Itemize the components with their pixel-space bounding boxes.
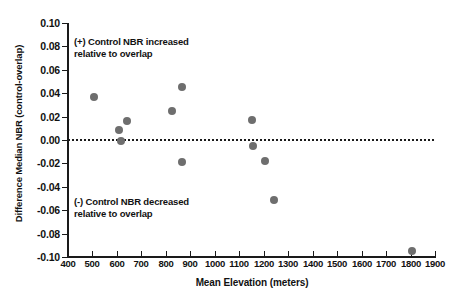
data-point <box>261 157 269 165</box>
y-axis-tick <box>62 163 68 164</box>
y-axis-tick-label: -0.06 <box>22 205 60 215</box>
y-axis-tick <box>62 23 68 24</box>
y-axis-tick-label: 0.02 <box>22 112 60 122</box>
y-axis-tick-label-text: 0.10 <box>26 18 60 28</box>
y-axis-tick-label: -0.04 <box>22 182 60 192</box>
x-axis-tick <box>117 251 118 256</box>
x-axis-tick <box>141 251 142 256</box>
y-axis-tick-label-text: 0.08 <box>26 41 60 51</box>
y-axis-tick <box>62 93 68 94</box>
x-axis-tick <box>166 251 167 256</box>
y-axis-tick-label: 0.04 <box>22 88 60 98</box>
y-axis-tick-label-text: 0.06 <box>26 65 60 75</box>
x-axis-tick <box>288 251 289 256</box>
y-axis-tick-label-text: -0.06 <box>26 205 60 215</box>
y-axis-tick-label: 0.00 <box>22 135 60 145</box>
x-axis-tick <box>264 251 265 256</box>
data-point <box>178 158 186 166</box>
data-point <box>249 142 257 150</box>
x-axis-tick <box>337 251 338 256</box>
y-axis-tick-label: -0.02 <box>22 158 60 168</box>
scatter-chart-figure: 0.100.080.060.040.020.00-0.02-0.04-0.06-… <box>0 0 450 302</box>
data-point <box>123 117 131 125</box>
x-axis-tick <box>190 251 191 256</box>
y-axis-tick-label: 0.06 <box>22 65 60 75</box>
data-point <box>168 107 176 115</box>
y-axis-title: Difference Median NBR (control-overlap) <box>13 34 24 234</box>
x-axis-tick <box>362 251 363 256</box>
x-axis-tick <box>68 251 69 256</box>
annotation-negative-note: (-) Control NBR decreased relative to ov… <box>74 196 189 219</box>
y-axis-tick <box>62 46 68 47</box>
y-axis-tick <box>62 210 68 211</box>
x-axis-title: Mean Elevation (meters) <box>68 277 436 288</box>
y-axis-tick-label: -0.08 <box>22 229 60 239</box>
x-axis-tick <box>313 251 314 256</box>
annotation-positive-note: (+) Control NBR increased relative to ov… <box>74 36 189 59</box>
y-axis-tick-label-text: 0.00 <box>26 135 60 145</box>
y-axis-tick-label-text: -0.02 <box>26 158 60 168</box>
y-axis-tick-label-text: -0.08 <box>26 229 60 239</box>
data-point <box>408 247 416 255</box>
x-axis-tick <box>239 251 240 256</box>
x-axis-tick <box>435 251 436 256</box>
data-point <box>117 137 125 145</box>
x-axis-tick <box>92 251 93 256</box>
y-axis-tick-label-text: 0.04 <box>26 88 60 98</box>
y-axis-tick-label: 0.10 <box>22 18 60 28</box>
y-axis-tick-label-text: -0.04 <box>26 182 60 192</box>
x-axis-tick <box>386 251 387 256</box>
y-axis-tick <box>62 187 68 188</box>
y-axis-tick <box>62 234 68 235</box>
y-axis-tick <box>62 70 68 71</box>
y-axis-tick-label: 0.08 <box>22 41 60 51</box>
x-axis-tick <box>215 251 216 256</box>
x-axis-tick-label: 1900 <box>415 259 450 269</box>
y-axis-tick <box>62 117 68 118</box>
data-point <box>90 93 98 101</box>
data-point <box>115 126 123 134</box>
y-axis-tick-label-text: 0.02 <box>26 112 60 122</box>
data-point <box>270 196 278 204</box>
